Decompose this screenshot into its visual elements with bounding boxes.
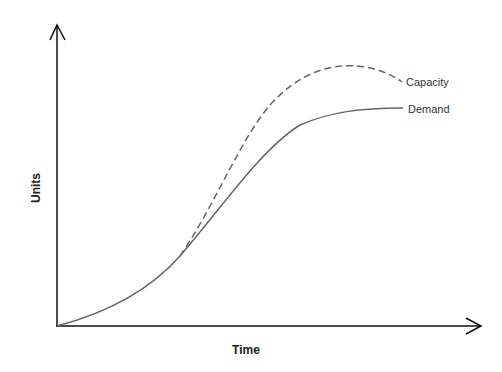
demand-line bbox=[57, 108, 403, 326]
y-axis-label: Units bbox=[29, 173, 43, 203]
capacity-line bbox=[180, 66, 402, 256]
demand-label: Demand bbox=[408, 103, 450, 115]
capacity-label: Capacity bbox=[406, 76, 449, 88]
x-axis-label: Time bbox=[232, 343, 260, 357]
growth-diagram: Capacity Demand Time Units bbox=[0, 0, 502, 372]
